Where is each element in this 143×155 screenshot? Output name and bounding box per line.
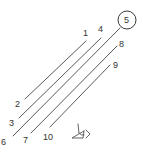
label-8: 8 bbox=[119, 39, 124, 49]
label-3: 3 bbox=[9, 118, 14, 128]
line-8-7 bbox=[31, 46, 117, 133]
diagram-svg: 1 2 3 4 5 6 7 8 9 10 bbox=[0, 0, 143, 155]
diagram-canvas: 1 2 3 4 5 6 7 8 9 10 bbox=[0, 0, 143, 155]
label-10: 10 bbox=[43, 132, 53, 142]
label-5: 5 bbox=[124, 15, 129, 25]
eye-icon bbox=[72, 124, 90, 138]
label-1: 1 bbox=[83, 28, 88, 38]
label-7: 7 bbox=[23, 135, 28, 145]
label-2: 2 bbox=[15, 99, 20, 109]
label-4: 4 bbox=[98, 24, 103, 34]
line-5-6 bbox=[13, 28, 120, 136]
line-9-10 bbox=[50, 65, 110, 127]
label-6: 6 bbox=[1, 137, 6, 147]
label-9: 9 bbox=[113, 60, 118, 70]
line-1-2 bbox=[25, 41, 86, 99]
line-4-3 bbox=[19, 38, 101, 118]
